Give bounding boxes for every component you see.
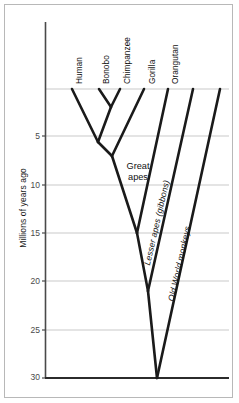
- taxon-label-human: Human: [75, 57, 84, 84]
- branch-human: [72, 89, 98, 142]
- group-label-great-apes-line1: Great: [116, 161, 160, 172]
- taxon-label-orangutan: Orangutan: [171, 44, 180, 84]
- cladogram-plot: [0, 0, 239, 403]
- branch-pan-stem: [98, 107, 111, 142]
- figure-root: Millions of years ago 5 10 15 20 25 30: [0, 0, 239, 403]
- gridlines: [45, 89, 229, 330]
- taxon-label-chimpanzee: Chimpanzee: [123, 37, 132, 84]
- branch-root: [148, 291, 157, 378]
- taxon-label-bonobo: Bonobo: [102, 55, 111, 84]
- taxon-label-gorilla: Gorilla: [148, 60, 157, 84]
- branch-homininae-stem: [98, 142, 112, 156]
- branch-gorilla: [112, 89, 144, 156]
- branch-bonobo: [99, 89, 111, 107]
- group-label-great-apes-line2: apes: [116, 172, 160, 183]
- branch-lesser-apes: [148, 89, 193, 291]
- branch-chimpanzee: [111, 89, 120, 107]
